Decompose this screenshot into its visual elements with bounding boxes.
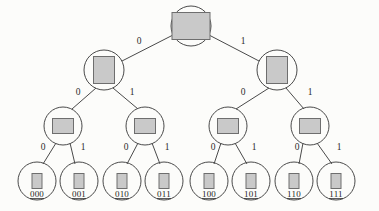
node-symbol-rect xyxy=(218,119,239,134)
nodes-group xyxy=(18,6,355,200)
leaf-labels-group: 000001010011100101110111 xyxy=(30,189,343,199)
tree-node-n10[interactable] xyxy=(209,107,247,145)
node-symbol-rect xyxy=(117,174,127,189)
tree-node-n11[interactable] xyxy=(291,107,329,145)
edge-label-0: 0 xyxy=(76,87,81,97)
node-symbol-rect xyxy=(32,174,42,189)
tree-node-root[interactable] xyxy=(171,6,211,46)
tree-node-n01[interactable] xyxy=(126,107,164,145)
leaf-label: 011 xyxy=(157,189,171,199)
tree-node-n0[interactable] xyxy=(84,50,124,90)
leaf-label: 101 xyxy=(244,189,258,199)
node-symbol-rect xyxy=(94,57,115,84)
node-symbol-rect xyxy=(267,57,288,84)
tree-edge xyxy=(152,143,160,164)
node-symbol-rect xyxy=(331,174,341,189)
edge-label-1: 1 xyxy=(308,87,313,97)
node-symbol-rect xyxy=(300,119,321,134)
tree-edge xyxy=(70,143,75,164)
leaf-label: 111 xyxy=(329,189,342,199)
diagram-canvas: 01010101010101 000001010011100101110111 xyxy=(0,0,379,211)
edge-label-1: 1 xyxy=(130,87,135,97)
tree-edge xyxy=(122,35,173,61)
edge-label-0: 0 xyxy=(241,87,246,97)
binary-tree-diagram: 01010101010101 000001010011100101110111 xyxy=(0,0,379,211)
node-symbol-rect xyxy=(53,119,74,134)
leaf-label: 100 xyxy=(202,189,216,199)
edge-label-1: 1 xyxy=(81,142,86,152)
edge-label-0: 0 xyxy=(295,142,300,152)
node-symbol-rect xyxy=(172,13,210,40)
edge-label-0: 0 xyxy=(124,142,129,152)
node-symbol-rect xyxy=(135,119,156,134)
node-symbol-rect xyxy=(204,174,214,189)
node-symbol-rect xyxy=(289,174,299,189)
tree-edge xyxy=(317,143,332,164)
edge-label-0: 0 xyxy=(137,36,142,46)
tree-edge xyxy=(127,143,138,164)
edge-label-0: 0 xyxy=(41,142,46,152)
tree-edge xyxy=(209,35,259,61)
edge-label-1: 1 xyxy=(241,36,246,46)
leaf-label: 010 xyxy=(115,189,129,199)
edge-label-1: 1 xyxy=(165,142,170,152)
edge-label-0: 0 xyxy=(211,142,216,152)
leaf-label: 000 xyxy=(30,189,44,199)
tree-edge xyxy=(286,88,304,109)
node-symbol-rect xyxy=(74,174,84,189)
node-symbol-rect xyxy=(246,174,256,189)
tree-edge xyxy=(235,143,247,164)
node-symbol-rect xyxy=(159,174,169,189)
edge-label-1: 1 xyxy=(252,142,257,152)
tree-node-n1[interactable] xyxy=(257,50,297,90)
tree-node-n00[interactable] xyxy=(44,107,82,145)
leaf-label: 001 xyxy=(72,189,86,199)
edge-label-1: 1 xyxy=(337,142,342,152)
tree-edge xyxy=(299,143,303,164)
leaf-label: 110 xyxy=(287,189,301,199)
